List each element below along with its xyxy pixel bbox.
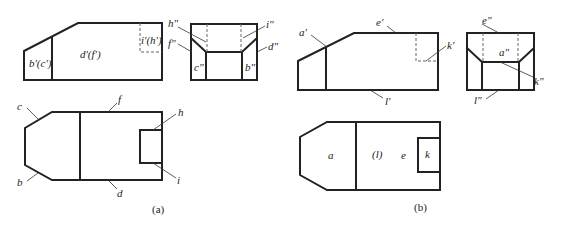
label-c-double: c" bbox=[194, 61, 204, 73]
label-i: i bbox=[177, 174, 180, 186]
front-view-b: a' e' k' l' bbox=[298, 16, 455, 107]
front-view-outline bbox=[298, 33, 438, 90]
label-l-hidden: (l) bbox=[372, 148, 383, 161]
label-f-double: f" bbox=[168, 37, 176, 49]
label-h: h bbox=[178, 106, 184, 118]
label-l-prime: l' bbox=[385, 95, 391, 107]
label-a: a bbox=[328, 149, 334, 161]
label-b: b bbox=[17, 176, 23, 188]
caption-b: (b) bbox=[414, 201, 427, 214]
label-d-double: d" bbox=[268, 40, 279, 52]
top-view-outline bbox=[25, 112, 162, 180]
profile-view-a: h" i" f" d" c" b" bbox=[168, 17, 279, 80]
label-k-prime: k' bbox=[447, 39, 455, 51]
figure-b: a' e' k' l' e" a" k" l" a bbox=[298, 14, 544, 214]
top-view-notch bbox=[140, 130, 162, 163]
label-d: d bbox=[117, 187, 123, 199]
label-k-double: k" bbox=[534, 75, 544, 87]
label-i-h-prime: i'(h') bbox=[141, 34, 162, 47]
profile-chamfer-line bbox=[191, 38, 257, 52]
label-l-double: l" bbox=[474, 94, 482, 106]
label-a-double: a" bbox=[499, 46, 510, 58]
label-h-double: h" bbox=[168, 17, 179, 29]
top-view-a: c f h b i d bbox=[17, 93, 184, 199]
label-c: c bbox=[17, 100, 22, 112]
top-view-b: a (l) e k bbox=[300, 122, 440, 190]
label-a-prime: a' bbox=[299, 26, 308, 38]
caption-a: (a) bbox=[152, 203, 165, 216]
profile-view-b: e" a" k" l" bbox=[467, 14, 544, 106]
figure-a: b'(c') d'(f') i'(h') h" i" f" d" c" b" bbox=[17, 17, 279, 216]
label-e-prime: e' bbox=[376, 16, 384, 28]
label-i-double: i" bbox=[266, 18, 274, 30]
projection-diagram: b'(c') d'(f') i'(h') h" i" f" d" c" b" bbox=[0, 0, 573, 226]
label-e: e bbox=[401, 149, 406, 161]
hidden-notch-outline bbox=[416, 33, 438, 61]
front-view-a: b'(c') d'(f') i'(h') bbox=[24, 23, 162, 80]
label-e-double: e" bbox=[482, 14, 492, 26]
label-b-double: b" bbox=[245, 61, 256, 73]
label-f: f bbox=[118, 93, 123, 105]
label-d-f-prime: d'(f') bbox=[80, 48, 101, 61]
label-b-c-prime: b'(c') bbox=[29, 57, 52, 70]
label-k: k bbox=[425, 148, 431, 160]
